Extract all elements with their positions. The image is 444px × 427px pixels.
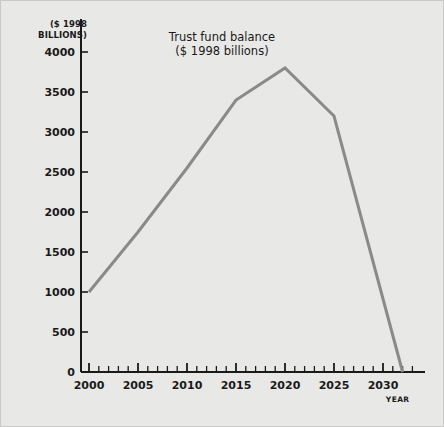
y-tick-label: 1000 <box>17 286 75 299</box>
y-tick-label: 1500 <box>17 246 75 259</box>
data-line-trust-fund-balance <box>89 68 403 372</box>
y-tick-label: 3500 <box>17 86 75 99</box>
x-axis-label: YEAR <box>368 395 428 404</box>
annotation-line1: Trust fund balance <box>122 30 322 44</box>
x-tick-label: 2030 <box>353 379 413 392</box>
y-tick-label: 2000 <box>17 206 75 219</box>
axes-group <box>81 19 425 372</box>
y-tick-label: 0 <box>17 366 75 379</box>
tick-marks-group <box>81 52 412 372</box>
y-tick-label: 3000 <box>17 126 75 139</box>
y-tick-label: 500 <box>17 326 75 339</box>
annotation-line2: ($ 1998 billions) <box>122 44 322 58</box>
y-tick-label: 2500 <box>17 166 75 179</box>
y-tick-label: 4000 <box>17 46 75 59</box>
chart-annotation: Trust fund balance ($ 1998 billions) <box>122 30 322 58</box>
chart-figure: ($ 1998 BILLIONS) 0500100015002000250030… <box>0 0 444 427</box>
